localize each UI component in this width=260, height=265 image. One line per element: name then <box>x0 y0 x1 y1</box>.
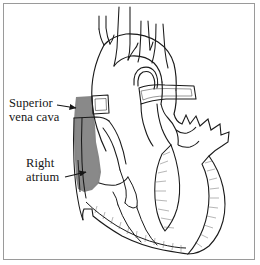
cut-vessel-right-horizontal <box>139 85 196 104</box>
wall-hatching-apex <box>95 206 181 252</box>
label-svc-line1: Superior <box>9 96 60 110</box>
heart-anatomy-figure: Superior vena cava Right atrium <box>0 0 260 265</box>
pulmonary-trunk <box>134 67 171 146</box>
ventricle-cavity-outline <box>118 205 157 245</box>
label-svc-line2: vena cava <box>9 110 60 124</box>
label-right-atrium: Right atrium <box>26 156 59 184</box>
valve-leaflets <box>113 170 137 208</box>
aortic-root-cutaway <box>161 104 229 156</box>
great-vessels-group <box>99 7 168 68</box>
right-ventricle-wall <box>188 156 225 254</box>
heart-illustration <box>0 0 260 265</box>
label-ra-line2: atrium <box>26 170 59 184</box>
cut-vessel-stub-left <box>92 95 109 114</box>
leader-line-superior-vena-cava <box>57 105 76 108</box>
interventricular-septum <box>155 145 180 231</box>
label-ra-line1: Right <box>26 156 59 170</box>
label-superior-vena-cava: Superior vena cava <box>9 96 60 124</box>
wall-hatching-right <box>195 161 219 247</box>
